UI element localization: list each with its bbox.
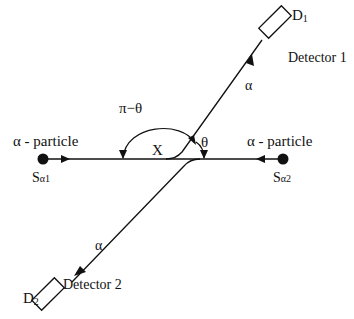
angle-label-theta: θ	[201, 134, 208, 150]
detector-2-symbol: D2	[23, 290, 39, 307]
detector-1-box	[259, 6, 292, 39]
arc-arrow-left-icon	[119, 150, 127, 159]
particle-label-right: α - particle	[247, 133, 313, 149]
particle-label-left: α - particle	[13, 133, 79, 149]
source-alpha1-label: Sα1	[32, 170, 50, 185]
detector-2-label: Detector 2	[63, 277, 122, 292]
source-alpha2-dot	[278, 154, 289, 165]
detector-1-symbol: D1	[292, 7, 308, 24]
alpha-label-upper: α	[245, 78, 253, 93]
intersection-label: X	[152, 142, 163, 158]
theta-arc-arrow-icon	[200, 150, 208, 159]
source-alpha2-label: Sα2	[273, 170, 291, 185]
angle-label-pi-minus-theta: π−θ	[119, 100, 142, 116]
detector-1-label: Detector 1	[288, 50, 347, 65]
source-alpha1-dot	[38, 154, 49, 165]
beam-arrow-right-icon	[256, 155, 265, 163]
beam-arrow-left-icon	[61, 155, 70, 163]
scattering-diagram: D1 Detector 1 α π−θ α - particle α - par…	[0, 0, 354, 319]
scattered-path-lower	[72, 159, 200, 282]
alpha-label-lower: α	[95, 238, 103, 253]
